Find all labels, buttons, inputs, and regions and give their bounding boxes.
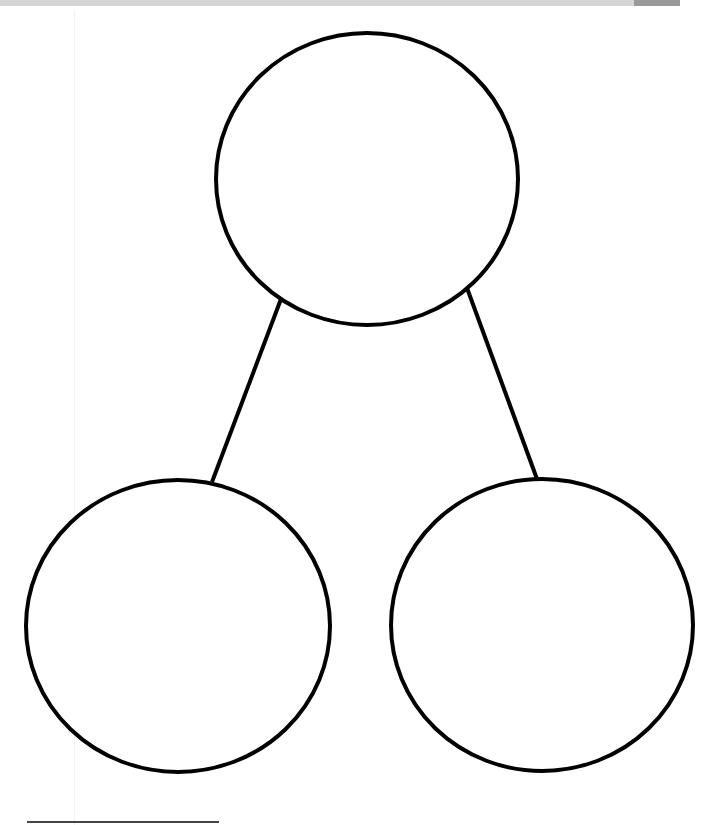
part-right-circle[interactable] — [391, 479, 693, 771]
right-connector-line — [467, 288, 537, 479]
number-bond-diagram — [0, 0, 709, 825]
footnote-rule — [27, 821, 219, 823]
whole-circle[interactable] — [216, 33, 518, 325]
part-left-circle[interactable] — [26, 480, 330, 772]
left-connector-line — [212, 299, 281, 482]
